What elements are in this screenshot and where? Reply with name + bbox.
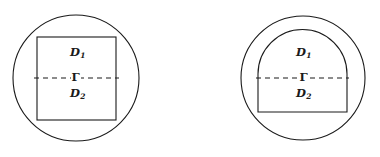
left-lower-region-letter: D	[70, 86, 80, 100]
figure-canvas: D1 Γ D2 D1 Γ D2	[0, 0, 380, 157]
right-upper-region-letter: D	[296, 45, 306, 59]
right-upper-region-subscript: 1	[306, 51, 311, 60]
right-interface-label: Γ	[299, 72, 309, 84]
left-upper-region-letter: D	[70, 45, 80, 59]
left-upper-region-label: D1	[70, 47, 85, 59]
left-interface-label: Γ	[71, 72, 81, 84]
right-lower-region-letter: D	[296, 86, 306, 100]
left-lower-region-subscript: 2	[80, 92, 85, 101]
left-upper-region-subscript: 1	[80, 51, 85, 60]
right-lower-region-subscript: 2	[306, 92, 311, 101]
left-lower-region-label: D2	[70, 88, 85, 100]
right-upper-region-label: D1	[296, 47, 311, 59]
right-lower-region-label: D2	[296, 88, 311, 100]
geometry-diagram	[0, 0, 380, 157]
